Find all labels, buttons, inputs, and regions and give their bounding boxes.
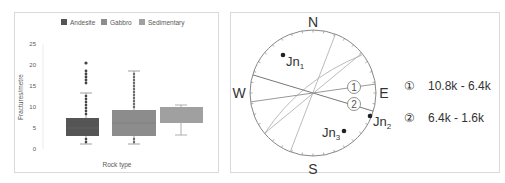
east-label: E [379, 85, 388, 101]
svg-text:1: 1 [351, 82, 357, 93]
legend-text-1: 10.8k - 6.4k [428, 79, 492, 93]
line-marker-1: 1 [348, 81, 361, 94]
jn3-label: Jn3 [322, 125, 341, 142]
north-label: N [308, 14, 318, 30]
jn3-point [342, 129, 347, 134]
jn2-point [368, 114, 373, 119]
legend-marker-1: ① [404, 79, 415, 93]
legend-marker-2: ② [404, 111, 415, 125]
jn2-label: Jn2 [373, 114, 392, 131]
jn1-point [281, 53, 286, 58]
stereonet-legend: ① 10.8k - 6.4k ② 6.4k - 1.6k [404, 79, 492, 125]
south-label: S [308, 161, 317, 177]
jn1-label: Jn1 [286, 54, 305, 71]
legend-text-2: 6.4k - 1.6k [428, 111, 485, 125]
svg-text:2: 2 [351, 99, 357, 110]
line-marker-2: 2 [348, 98, 361, 111]
west-label: W [232, 85, 246, 101]
stereonet: 1 2 N E S W Jn1 Jn2 Jn3 ① 10.8k - 6.4k ②… [0, 0, 505, 183]
joint-poles: Jn1 Jn2 Jn3 [281, 53, 392, 142]
